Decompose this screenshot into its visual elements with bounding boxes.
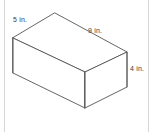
dimension-label-height: 4 in. (130, 64, 144, 73)
dimension-label-depth: 5 in. (13, 15, 27, 24)
figure-canvas: 5 in. 9 in. 4 in. (0, 0, 159, 132)
dimension-label-length: 9 in. (88, 26, 102, 35)
